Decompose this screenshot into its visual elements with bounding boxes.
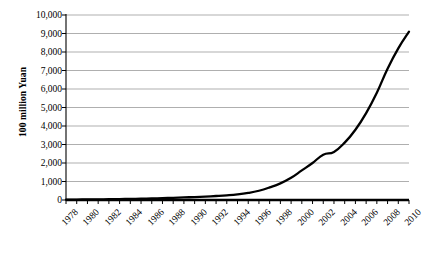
x-axis-tick-labels: 1978198019821984198619881990199219941996… [0, 0, 428, 253]
line-chart: 100 million Yuan 10,0009,0008,0007,0006,… [0, 0, 428, 253]
